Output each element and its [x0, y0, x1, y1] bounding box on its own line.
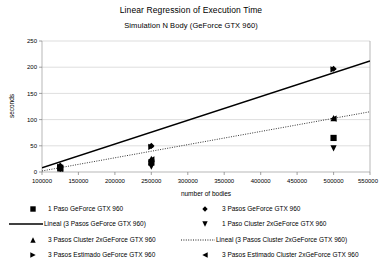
x-tick-label: 150000: [68, 178, 89, 184]
x-tick-label: 550000: [358, 178, 379, 184]
x-tick-label: 300000: [178, 178, 199, 184]
y-tick-label: 250: [27, 38, 38, 44]
y-tick-label: 200: [27, 64, 38, 70]
data-point: [330, 135, 336, 141]
x-tick-label: 100000: [32, 178, 53, 184]
x-tick-label: 200000: [105, 178, 126, 184]
x-axis: 100000 150000 200000 250000 300000 35000…: [32, 172, 379, 184]
x-tick-label: 500000: [324, 178, 345, 184]
chart-container: Linear Regression of Execution Time Simu…: [0, 0, 382, 277]
x-tick-label: 250000: [141, 178, 162, 184]
x-axis-label: number of bodies: [181, 190, 232, 197]
y-axis-label: seconds: [8, 93, 15, 118]
x-tick-label: 400000: [251, 178, 272, 184]
chart-plot: 250 200 150 100 50 0 seconds 10000: [0, 0, 382, 277]
x-tick-label: 450000: [287, 178, 308, 184]
y-tick-label: 0: [34, 169, 38, 175]
y-tick-label: 150: [27, 91, 38, 97]
x-tick-label: 350000: [214, 178, 235, 184]
y-tick-label: 50: [30, 143, 37, 149]
y-axis: 250 200 150 100 50 0: [27, 38, 42, 175]
y-tick-label: 100: [27, 117, 38, 123]
